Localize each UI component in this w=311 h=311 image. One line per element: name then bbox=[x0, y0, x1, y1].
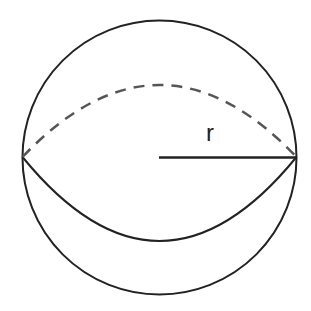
sphere-drawing bbox=[0, 0, 311, 311]
equator-front-arc bbox=[23, 157, 297, 241]
equator-back-dashed-arc bbox=[23, 85, 297, 157]
radius-label: r bbox=[206, 121, 214, 145]
sphere-diagram: r bbox=[0, 0, 311, 311]
